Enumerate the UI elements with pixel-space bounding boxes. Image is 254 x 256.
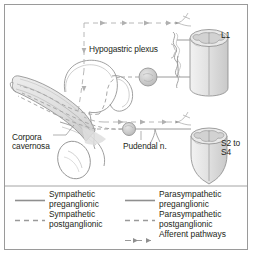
arrow-line-swatch-icon [125,232,155,243]
solid-line-swatch-icon [15,192,45,203]
label-spinal-level-s2-s4: S2 to S4 [221,139,240,157]
pelvic-ganglion [123,123,136,136]
legend-item-afferent-pathways: Afferent pathways [125,230,250,243]
label-spinal-level-l1: L1 [221,31,230,40]
legend-item-parasympathetic-postganglionic: Parasympathetic postganglionic [125,210,250,229]
dashed-line-swatch-icon [125,212,155,223]
legend-item-sympathetic-preganglionic: Sympathetic preganglionic [15,190,125,209]
legend-label: Sympathetic postganglionic [49,210,125,229]
dashed-line-swatch-icon [15,212,45,223]
afferent-penile-ascent [78,70,84,112]
hypogastric-ganglion [139,68,157,86]
label-corpora-cavernosa: Corpora cavernosa [12,133,50,151]
legend: Sympathetic preganglionic Sympathetic po… [5,190,248,250]
legend-item-sympathetic-postganglionic: Sympathetic postganglionic [15,210,125,229]
legend-label: Afferent pathways [159,230,226,240]
label-hypogastric-plexus: Hypogastric plexus [89,45,158,54]
label-pudendal-nerve: Pudendal n. [123,142,167,151]
legend-label: Parasympathetic preganglionic [159,190,250,209]
legend-column-sympathetic: Sympathetic preganglionic Sympathetic po… [15,190,125,230]
hypogastric-brace [171,44,177,58]
legend-item-parasympathetic-preganglionic: Parasympathetic preganglionic [125,190,250,209]
legend-label: Parasympathetic postganglionic [159,210,250,229]
legend-label: Sympathetic preganglionic [49,190,125,209]
figure-container: Hypogastric plexus Corpora cavernosa Pud… [0,0,254,256]
solid-line-swatch-icon [125,192,155,203]
legend-column-parasympathetic: Parasympathetic preganglionic Parasympat… [125,190,250,244]
